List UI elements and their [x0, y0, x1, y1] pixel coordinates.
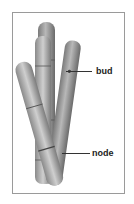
node-leader-line: [62, 153, 90, 154]
sugarcane-illustration: [0, 0, 134, 204]
bud-label: bud: [96, 66, 113, 76]
node-label: node: [92, 148, 114, 158]
bud-leader-line: [66, 71, 92, 72]
